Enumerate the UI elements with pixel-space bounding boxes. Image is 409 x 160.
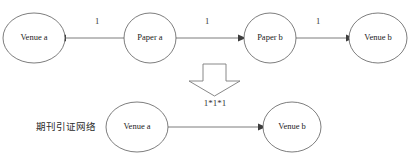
edge-weight-label: 1 [316, 16, 320, 26]
top-row-edges [58, 35, 354, 42]
diagram-canvas: Venue a Paper a Paper b Venue b 1 1 1 [0, 0, 409, 160]
edge-paper-b-to-venue-b [294, 35, 354, 42]
node-venue-b-bottom: Venue b [263, 102, 321, 152]
node-venue-a-top: Venue a [3, 13, 65, 63]
node-paper-a: Paper a [124, 13, 176, 63]
citation-network-diagram: Venue a Paper a Paper b Venue b 1 1 1 [0, 0, 409, 160]
transform-product-label: 1*1*1 [204, 98, 227, 108]
edge-paper-a-to-venue-a [58, 35, 126, 42]
node-label: Venue a [123, 121, 150, 131]
node-venue-b-top: Venue b [349, 13, 407, 63]
network-caption-label: 期刊引证网络 [36, 121, 96, 132]
node-label: Paper b [257, 32, 283, 42]
node-paper-b: Paper b [244, 13, 296, 63]
edge-weight-label: 1 [205, 16, 209, 26]
edge-venue-a-to-venue-b [168, 124, 266, 131]
edge-weight-label: 1 [95, 16, 99, 26]
node-label: Paper a [137, 32, 162, 42]
block-arrow-shape [189, 64, 240, 96]
node-venue-a-bottom: Venue a [106, 102, 168, 152]
node-label: Venue b [364, 32, 392, 42]
node-label: Venue a [20, 32, 47, 42]
node-label: Venue b [278, 121, 306, 131]
down-block-arrow-icon [189, 64, 240, 96]
edge-paper-a-to-paper-b [174, 35, 246, 42]
